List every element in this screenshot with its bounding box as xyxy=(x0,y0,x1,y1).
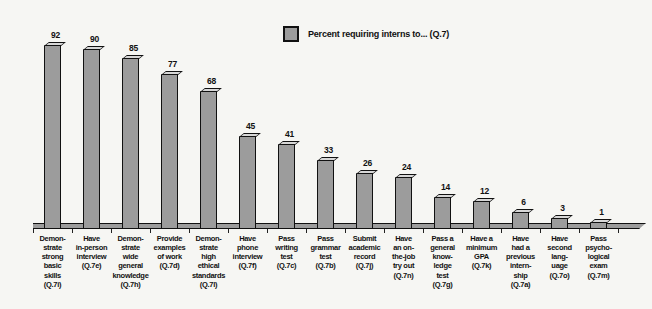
axis-tick xyxy=(618,229,619,233)
bar-column: 14 xyxy=(423,20,462,229)
category-label: Submit academic record (Q.7j) xyxy=(343,234,387,271)
bar-top-face xyxy=(278,141,300,145)
axis-tick xyxy=(579,229,580,233)
bar-value-label: 90 xyxy=(75,34,114,44)
axis-tick xyxy=(501,229,502,233)
bar-top-face xyxy=(161,71,183,75)
bar-front-face xyxy=(122,58,139,229)
category-label: Have in-person interview (Q.7e) xyxy=(70,234,114,271)
bar-top-face xyxy=(590,219,612,223)
bar-value-label: 26 xyxy=(348,158,387,168)
bar-top-face xyxy=(239,133,261,137)
bar-top-face xyxy=(473,198,495,202)
category-label: Pass a general know- ledge test (Q.7g) xyxy=(421,234,465,289)
bar-top-face xyxy=(317,157,339,161)
category-label: Have had a previous intern- ship (Q.7a) xyxy=(499,234,543,289)
bar-top-face xyxy=(356,170,378,174)
bar-column: 6 xyxy=(501,20,540,229)
axis-tick xyxy=(111,229,112,233)
bar-column: 85 xyxy=(111,20,150,229)
bar-column: 77 xyxy=(150,20,189,229)
bar-column: 33 xyxy=(306,20,345,229)
axis-tick xyxy=(228,229,229,233)
bar-value-label: 1 xyxy=(582,207,621,217)
bar-top-face xyxy=(122,55,144,59)
bar-top-face xyxy=(395,174,417,178)
bar-top-face xyxy=(83,46,105,50)
axis-tick xyxy=(540,229,541,233)
axis-tick xyxy=(72,229,73,233)
plot-area: 92Demon- strate strong basic skills (Q.7… xyxy=(0,0,652,309)
bar-column: 24 xyxy=(384,20,423,229)
category-label: Have a minimum GPA (Q.7k) xyxy=(460,234,504,271)
bar-top-face xyxy=(512,209,534,213)
bar-front-face xyxy=(551,218,568,229)
category-label: Have an on- the-job try out (Q.7n) xyxy=(382,234,426,280)
axis-tick xyxy=(33,229,34,233)
bar-front-face xyxy=(473,201,490,229)
bar-top-face xyxy=(434,194,456,198)
bar-front-face xyxy=(161,74,178,229)
bar-front-face xyxy=(200,91,217,229)
bar-value-label: 12 xyxy=(465,186,504,196)
bar-value-label: 85 xyxy=(114,43,153,53)
bar-column: 26 xyxy=(345,20,384,229)
category-label: Pass writing test (Q.7c) xyxy=(265,234,309,271)
bar-value-label: 77 xyxy=(153,59,192,69)
bar-column: 12 xyxy=(462,20,501,229)
bar-front-face xyxy=(44,45,61,229)
bar-front-face xyxy=(395,177,412,229)
axis-tick xyxy=(384,229,385,233)
category-label: Pass psycho- logical exam (Q.7m) xyxy=(577,234,621,280)
bar-value-label: 92 xyxy=(36,30,75,40)
axis-tick xyxy=(150,229,151,233)
category-label: Demon- strate wide general knowledge (Q.… xyxy=(109,234,153,289)
bar-column: 90 xyxy=(72,20,111,229)
bar-value-label: 41 xyxy=(270,129,309,139)
bar-value-label: 24 xyxy=(387,162,426,172)
bar-value-label: 6 xyxy=(504,197,543,207)
bar-front-face xyxy=(239,136,256,229)
bar-value-label: 33 xyxy=(309,145,348,155)
axis-tick xyxy=(423,229,424,233)
bar-column: 92 xyxy=(33,20,72,229)
bar-top-face xyxy=(551,215,573,219)
axis-tick xyxy=(189,229,190,233)
bar-front-face xyxy=(590,222,607,229)
bar-column: 41 xyxy=(267,20,306,229)
bar-column: 3 xyxy=(540,20,579,229)
bar-value-label: 3 xyxy=(543,203,582,213)
bar-front-face xyxy=(434,197,451,229)
chart-canvas: Percent requiring interns to... (Q.7) 92… xyxy=(0,0,652,309)
category-label: Provide examples of work (Q.7d) xyxy=(148,234,192,271)
category-label: Have phone interview (Q.7f) xyxy=(226,234,270,271)
bar-front-face xyxy=(317,160,334,229)
bar-column: 45 xyxy=(228,20,267,229)
bar-value-label: 45 xyxy=(231,121,270,131)
bar-column: 1 xyxy=(579,20,618,229)
category-label: Demon- strate high ethical standards (Q.… xyxy=(187,234,231,289)
axis-tick xyxy=(267,229,268,233)
category-label: Have second lang- uage (Q.7o) xyxy=(538,234,582,280)
bar-value-label: 14 xyxy=(426,182,465,192)
category-label: Pass grammar test (Q.7b) xyxy=(304,234,348,271)
axis-tick xyxy=(345,229,346,233)
bar-column: 68 xyxy=(189,20,228,229)
bar-front-face xyxy=(356,173,373,229)
axis-tick xyxy=(462,229,463,233)
bar-value-label: 68 xyxy=(192,76,231,86)
bar-front-face xyxy=(278,144,295,229)
bar-top-face xyxy=(200,88,222,92)
bar-front-face xyxy=(83,49,100,230)
category-label: Demon- strate strong basic skills (Q.7i) xyxy=(31,234,75,289)
axis-tick xyxy=(306,229,307,233)
bar-top-face xyxy=(44,42,66,46)
bar-front-face xyxy=(512,212,529,229)
